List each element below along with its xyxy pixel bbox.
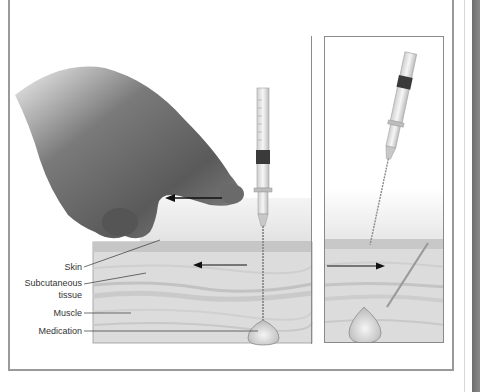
tissue-block (93, 242, 312, 343)
label-muscle: Muscle (2, 308, 82, 319)
label-tissue: tissue (2, 290, 82, 301)
right-panel (324, 36, 444, 343)
label-skin: Skin (2, 262, 82, 273)
panel-divider (311, 36, 312, 344)
right-panel-illustration (325, 37, 444, 343)
label-subcutaneous: Subcutaneous (2, 278, 82, 289)
label-medication: Medication (2, 326, 82, 337)
